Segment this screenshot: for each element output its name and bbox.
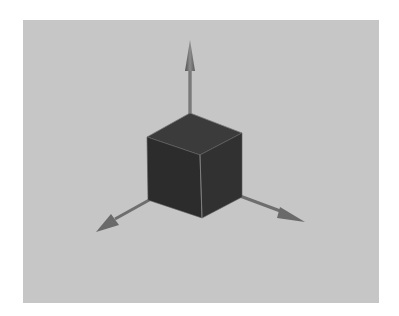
arrow-shaft bbox=[115, 199, 151, 219]
arrow-head-icon bbox=[96, 214, 119, 232]
cube[interactable] bbox=[147, 113, 242, 218]
axis-arrow-right[interactable] bbox=[240, 196, 305, 222]
axis-arrow-left[interactable] bbox=[96, 199, 151, 232]
arrow-shaft bbox=[240, 196, 283, 212]
axis-arrow-up[interactable] bbox=[185, 40, 195, 114]
arrow-head-icon bbox=[185, 40, 195, 71]
arrow-head-icon bbox=[277, 207, 305, 222]
3d-scene bbox=[0, 0, 399, 316]
arrow-shaft bbox=[189, 68, 192, 114]
